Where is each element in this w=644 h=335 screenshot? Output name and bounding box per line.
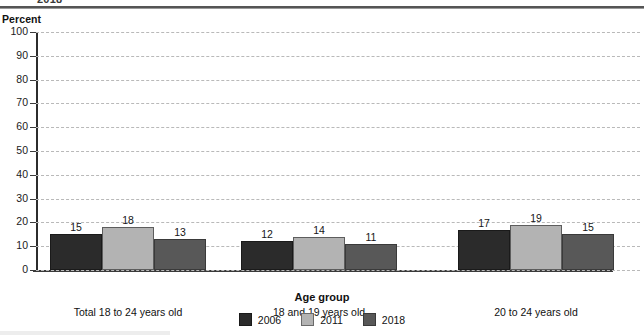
- bar-value-label: 12: [241, 228, 293, 240]
- bottom-edge-artifact: [0, 331, 170, 335]
- y-axis-unit-label: Percent: [2, 13, 41, 25]
- bar-2006-2: [458, 230, 510, 270]
- bar-value-label: 11: [345, 231, 397, 243]
- gridline: [36, 199, 640, 200]
- header-rule-secondary: [0, 8, 644, 9]
- gridline: [36, 80, 640, 81]
- bar-value-label: 17: [458, 217, 510, 229]
- bar-value-label: 15: [50, 221, 102, 233]
- clipped-title: 2018: [37, 0, 62, 5]
- legend-item-2018[interactable]: 2018: [363, 313, 405, 326]
- y-axis-tick-label: 60: [2, 120, 28, 132]
- legend-swatch-icon: [239, 313, 252, 326]
- chart-figure: 2018 Percent 010203040506070809010015181…: [0, 0, 644, 335]
- y-axis-tick-label: 100: [2, 25, 28, 37]
- legend-item-2006[interactable]: 2006: [239, 313, 281, 326]
- y-axis-tick: [30, 127, 36, 128]
- y-axis-tick: [30, 80, 36, 81]
- gridline: [36, 32, 640, 33]
- y-axis-tick: [30, 151, 36, 152]
- y-axis-tick: [30, 246, 36, 247]
- gridline: [36, 103, 640, 104]
- legend-label: 2018: [382, 314, 405, 326]
- y-axis-tick: [30, 270, 36, 271]
- bar-2006-1: [241, 241, 293, 270]
- y-axis-tick-label: 50: [2, 144, 28, 156]
- y-axis-tick-label: 30: [2, 192, 28, 204]
- y-axis-tick-label: 70: [2, 96, 28, 108]
- y-axis-tick-label: 80: [2, 73, 28, 85]
- legend-swatch-icon: [363, 313, 376, 326]
- y-axis-tick-label: 10: [2, 239, 28, 251]
- legend-label: 2006: [258, 314, 281, 326]
- y-axis-tick: [30, 32, 36, 33]
- bar-2011-0: [102, 227, 154, 270]
- bar-2018-2: [562, 234, 614, 270]
- bar-2018-0: [154, 239, 206, 270]
- y-axis-tick-label: 90: [2, 49, 28, 61]
- y-axis-tick-label: 40: [2, 168, 28, 180]
- gridline: [36, 56, 640, 57]
- legend-label: 2011: [320, 314, 343, 326]
- y-axis-tick-label: 0: [2, 263, 28, 275]
- y-axis-tick: [30, 199, 36, 200]
- y-axis-tick: [30, 222, 36, 223]
- gridline: [36, 175, 640, 176]
- bar-value-label: 15: [562, 221, 614, 233]
- bar-value-label: 13: [154, 226, 206, 238]
- chart-legend: 200620112018: [0, 313, 644, 326]
- bar-2011-1: [293, 237, 345, 270]
- bar-value-label: 18: [102, 214, 154, 226]
- y-axis-tick: [30, 56, 36, 57]
- legend-item-2011[interactable]: 2011: [301, 313, 343, 326]
- y-axis-tick: [30, 175, 36, 176]
- plot-area: 0102030405060708090100151813Total 18 to …: [36, 32, 640, 270]
- y-axis-tick-label: 20: [2, 215, 28, 227]
- gridline: [36, 127, 640, 128]
- bar-value-label: 19: [510, 212, 562, 224]
- bar-2006-0: [50, 234, 102, 270]
- bar-value-label: 14: [293, 224, 345, 236]
- bar-2018-1: [345, 244, 397, 270]
- y-axis-tick: [30, 103, 36, 104]
- gridline: [36, 151, 640, 152]
- gridline: [36, 270, 640, 271]
- x-axis-title: Age group: [0, 291, 644, 303]
- legend-swatch-icon: [301, 313, 314, 326]
- bar-2011-2: [510, 225, 562, 270]
